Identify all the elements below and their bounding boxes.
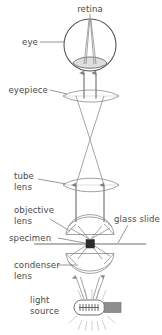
tube-to-eyepiece-rays bbox=[76, 96, 104, 185]
label-eyepiece: eyepiece bbox=[8, 85, 48, 95]
label-retina: retina bbox=[77, 4, 103, 14]
microscope-ray-diagram: retina eye eyepiece tube lens objective … bbox=[0, 0, 162, 335]
label-objective-lens-line1: objective bbox=[14, 205, 54, 215]
label-eye: eye bbox=[22, 37, 38, 47]
condenser-lens bbox=[66, 254, 114, 274]
optical-diagram: retina eye eyepiece tube lens objective … bbox=[0, 0, 162, 335]
label-light-source-line1: light bbox=[30, 295, 50, 305]
leader-objective-lens bbox=[50, 219, 70, 231]
label-specimen: specimen bbox=[9, 233, 51, 243]
label-light-source-line2: source bbox=[30, 306, 59, 316]
objective-lens bbox=[66, 215, 114, 235]
eye-group bbox=[64, 19, 116, 71]
eyepiece-to-eye-rays bbox=[84, 73, 96, 99]
eye-lens-icon bbox=[73, 57, 107, 68]
leader-tube-lens bbox=[38, 179, 66, 184]
leader-lines bbox=[38, 14, 128, 265]
light-source-group bbox=[69, 289, 121, 331]
leader-eyepiece bbox=[50, 90, 67, 94]
bulb-base-icon bbox=[104, 303, 121, 313]
specimen-to-objective-rays bbox=[70, 226, 110, 239]
light-glow-icon bbox=[69, 316, 115, 331]
specimen-marker bbox=[86, 240, 95, 249]
tube-lens bbox=[63, 178, 119, 192]
label-condenser-lens-line1: condenser bbox=[14, 260, 60, 270]
label-tube-lens-line1: tube bbox=[14, 171, 34, 181]
label-condenser-lens-line2: lens bbox=[14, 271, 32, 281]
label-glass-slide: glass slide bbox=[114, 214, 160, 224]
label-tube-lens-line2: lens bbox=[14, 182, 32, 192]
eyepiece-lens bbox=[63, 90, 119, 102]
label-objective-lens-line2: lens bbox=[14, 216, 32, 226]
leader-glass-slide bbox=[118, 225, 128, 243]
leader-specimen bbox=[58, 238, 85, 243]
